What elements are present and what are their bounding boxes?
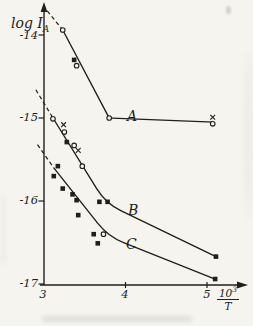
data-point-square xyxy=(56,164,61,169)
data-point-circle xyxy=(80,164,85,169)
data-point-square xyxy=(213,277,218,282)
data-point-square xyxy=(91,232,96,237)
data-point-square xyxy=(214,254,219,259)
data-point-square xyxy=(97,200,102,205)
data-point-square xyxy=(95,241,100,246)
y-axis-label-sub: A xyxy=(43,24,50,34)
x-axis-label: 103 T xyxy=(215,286,241,313)
data-point-square xyxy=(72,58,77,63)
data-point-square xyxy=(105,200,110,205)
data-point-square xyxy=(70,192,75,197)
fit-line-dashed-A xyxy=(47,11,62,30)
data-point-circle xyxy=(107,116,112,121)
y-tick-label-16: -16 xyxy=(4,195,38,207)
data-point-square xyxy=(65,140,70,145)
x-axis-label-denominator: T xyxy=(215,300,241,313)
y-tick-label-15: -15 xyxy=(4,112,38,124)
fit-line-A xyxy=(63,30,214,122)
fit-line-dashed-C xyxy=(37,145,53,168)
data-point-square xyxy=(51,174,56,179)
data-point-circle xyxy=(51,117,56,122)
data-point-square xyxy=(60,186,65,191)
data-point-square xyxy=(74,198,79,203)
data-point-circle xyxy=(74,63,79,68)
curve-label-a: A xyxy=(127,109,137,123)
x-axis-label-numerator: 103 xyxy=(217,286,239,300)
y-tick-label-17: -17 xyxy=(4,278,38,290)
data-point-x xyxy=(210,115,215,120)
curve-label-b: B xyxy=(128,203,138,217)
data-point-circle xyxy=(60,28,65,33)
data-point-circle xyxy=(72,143,77,148)
data-point-circle xyxy=(210,122,215,127)
y-axis-arrowhead xyxy=(41,2,48,12)
data-point-x xyxy=(61,122,66,127)
fit-line-C xyxy=(54,168,215,279)
x-tick-label-3: 3 xyxy=(33,289,53,301)
data-point-circle xyxy=(62,130,67,135)
data-point-circle xyxy=(101,232,106,237)
data-point-x xyxy=(76,148,81,153)
curve-label-c: C xyxy=(126,237,137,251)
y-tick-label-14: -14 xyxy=(4,30,38,42)
x-tick-label-5: 5 xyxy=(197,289,217,301)
x-tick-label-4: 4 xyxy=(115,289,135,301)
figure-page: log IA -14 -15 -16 -17 3 4 5 103 T A B C xyxy=(0,0,253,326)
data-point-square xyxy=(76,213,81,218)
